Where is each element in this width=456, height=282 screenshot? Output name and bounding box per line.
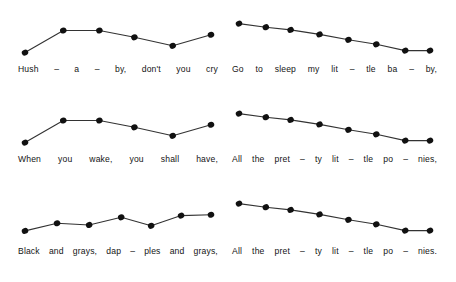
lyric-syllable: by, [115,64,126,74]
lyric-syllable: lit [332,246,339,256]
contour-data-point [177,212,185,220]
lyric-syllable: Go [232,64,244,74]
contour-data-point [117,213,125,221]
syllable-separator: – [350,64,355,74]
lyric-line: Allthepret–tylit–tlepo–nies. [232,246,437,256]
contour-data-point [286,116,294,124]
contour-data-point [262,203,270,211]
pitch-contour-figure: Hush–a–by,don'tyoucryGotosleepmylit–tleb… [0,0,456,282]
contour-data-point [207,31,215,39]
contour-polyline [25,31,211,53]
lyric-syllable: All [232,246,242,256]
lyric-line: Gotosleepmylit–tleba–by, [232,64,437,74]
contour-data-point [207,121,215,129]
lyric-line: Blackandgrays,dap–plesandgrays, [18,246,218,256]
contour-data-point [169,132,177,140]
contour-data-point [372,40,380,48]
lyric-line: Allthepret–tylit–tlepo–nies, [232,154,437,164]
contour-data-point [207,211,215,219]
contour-line-plot [18,106,218,152]
lyric-syllable: ty [315,154,322,164]
contour-data-point [130,33,138,41]
lyric-syllable: Black [18,246,40,256]
lyric-syllable: the [252,246,264,256]
contour-data-point [95,27,103,35]
syllable-separator: – [54,64,59,74]
contour-data-point [315,210,323,218]
contour-data-point [235,20,243,28]
contour-data-point [401,137,409,145]
lyric-syllable: All [232,154,242,164]
contour-data-point [315,120,323,128]
lyric-syllable: have, [196,154,218,164]
lyric-syllable: to [256,64,263,74]
lyric-syllable: pret [275,154,290,164]
contour-data-point [59,117,67,125]
lyric-syllable: sleep [275,64,296,74]
syllable-separator: – [349,154,354,164]
lyric-syllable: wake, [89,154,112,164]
contour-data-point [235,110,243,118]
lyric-syllable: and [170,246,185,256]
lyric-syllable: ba [388,64,398,74]
syllable-separator: – [300,154,305,164]
contour-data-point [262,113,270,121]
lyric-syllable: grays, [73,246,97,256]
contour-data-point [21,49,29,57]
contour-data-point [344,36,352,44]
contour-data-point [147,222,155,230]
contour-data-point [53,219,61,227]
contour-data-point [286,206,294,214]
lyric-syllable: nies, [418,154,437,164]
plot-area [18,106,218,152]
contour-data-point [372,220,380,228]
contour-line-plot [232,104,437,152]
contour-data-point [85,221,93,229]
lyric-syllable: a [74,64,79,74]
lyric-syllable: the [252,154,264,164]
contour-data-point [426,47,434,55]
lyric-syllable: lit [332,154,339,164]
contour-data-point [21,139,29,147]
lyric-syllable: lit [331,64,338,74]
lyric-syllable: nies. [418,246,437,256]
lyric-syllable: my [308,64,320,74]
lyric-syllable: grays, [194,246,218,256]
contour-data-point [169,42,177,50]
syllable-separator: – [300,246,305,256]
syllable-separator: – [349,246,354,256]
lyric-syllable: shall [161,154,179,164]
contour-data-point [130,123,138,131]
lyric-syllable: tle [364,154,374,164]
lyric-syllable: you [129,154,143,164]
syllable-separator: – [130,246,135,256]
lyric-line: Whenyouwake,youshallhave, [18,154,218,164]
lyric-syllable: you [176,64,190,74]
lyric-syllable: ty [315,246,322,256]
lyric-syllable: pret [275,246,290,256]
contour-data-point [21,227,29,235]
lyric-syllable: po [383,154,393,164]
lyric-syllable: tle [364,246,374,256]
plot-area [232,104,437,152]
contour-data-point [95,117,103,125]
contour-line-plot [232,14,437,62]
plot-area [18,196,218,242]
contour-data-point [286,26,294,34]
lyric-syllable: cry [206,64,218,74]
plot-area [18,16,218,62]
lyric-syllable: When [18,154,41,164]
contour-data-point [235,200,243,208]
contour-line-plot [18,196,218,242]
lyric-syllable: by, [426,64,437,74]
syllable-separator: – [403,246,408,256]
lyric-syllable: Hush [18,64,39,74]
lyric-syllable: po [383,246,393,256]
contour-data-point [426,227,434,235]
contour-data-point [401,227,409,235]
lyric-syllable: dap [106,246,121,256]
plot-area [232,194,437,242]
contour-data-point [426,137,434,145]
syllable-separator: – [95,64,100,74]
lyric-syllable: and [49,246,64,256]
